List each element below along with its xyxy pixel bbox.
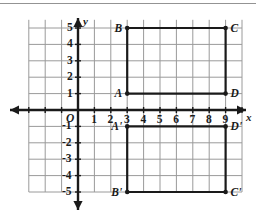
x-tick-label-5: 5	[157, 114, 163, 126]
y-tick-label-3: 3	[67, 55, 73, 67]
vertex-point-d	[223, 91, 228, 96]
x-tick-label-3: 3	[124, 114, 130, 126]
vertex-point-c	[223, 26, 228, 31]
vertex-point-b	[125, 26, 130, 31]
vertex-label-b-prime: B'	[111, 187, 122, 199]
y-tick-label-neg4: -4	[62, 170, 72, 182]
coordinate-plane-svg	[0, 0, 256, 219]
vertex-label-c-prime: C'	[231, 187, 242, 199]
y-tick-label-5: 5	[67, 22, 73, 34]
x-tick-label-9: 9	[222, 114, 228, 126]
x-tick-label-6: 6	[173, 114, 179, 126]
origin-label: O	[66, 113, 74, 125]
vertex-point-c-prime	[223, 190, 228, 195]
x-tick-label-1: 1	[91, 114, 97, 126]
x-tick-label-2: 2	[108, 114, 114, 126]
y-tick-label-neg2: -2	[62, 137, 72, 149]
y-tick-label-4: 4	[67, 38, 73, 50]
coordinate-plane-figure: ABCDA'B'C'D'12345678912345-1-2-3-4-5Oxy	[0, 0, 256, 219]
x-tick-label-8: 8	[206, 114, 212, 126]
vertex-label-d-prime: D'	[231, 121, 243, 133]
vertex-point-a	[125, 91, 130, 96]
x-axis-arrow-left	[10, 105, 19, 114]
vertex-label-b: B	[115, 23, 123, 35]
vertex-label-d: D	[231, 88, 239, 100]
x-tick-label-4: 4	[140, 114, 146, 126]
grid-lines	[29, 20, 242, 192]
y-axis-label: y	[83, 16, 88, 27]
y-tick-label-neg3: -3	[62, 153, 72, 165]
y-axis-arrow-down	[73, 201, 82, 210]
y-tick-label-neg5: -5	[62, 186, 72, 198]
x-axis-label: x	[246, 112, 252, 123]
x-tick-label-7: 7	[190, 114, 196, 126]
y-tick-label-1: 1	[67, 88, 73, 100]
vertex-label-c: C	[231, 23, 239, 35]
vertex-label-a: A	[115, 88, 123, 100]
vertex-point-b-prime	[125, 190, 130, 195]
y-tick-label-2: 2	[67, 71, 73, 83]
y-axis-arrow-up	[73, 18, 82, 27]
